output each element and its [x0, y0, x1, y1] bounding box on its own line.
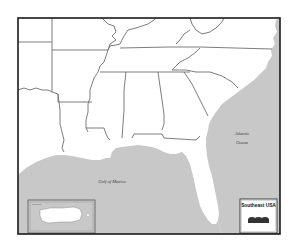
legend-scale: --- --- ---	[255, 210, 262, 212]
gulf-of-mexico-label: Gulf of Mexico	[98, 179, 126, 184]
legend-logo-icon	[248, 217, 269, 223]
puerto-rico-inset: Puerto Rico ...	[28, 200, 95, 233]
southeast-usa-map: Atlantic Ocean Gulf of Mexico Puerto Ric…	[0, 0, 295, 245]
atlantic-label-line1: Atlantic	[234, 131, 250, 136]
map-legend: Southeast USA --- --- --- ...	[240, 199, 277, 233]
atlantic-label-line2: Ocean	[236, 140, 249, 145]
puerto-rico-island	[40, 207, 82, 223]
inset-title: Puerto Rico	[32, 203, 41, 205]
legend-title: Southeast USA	[241, 203, 276, 208]
